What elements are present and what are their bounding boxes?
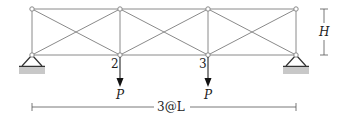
- pin-support-right: [283, 55, 309, 74]
- load-label-p: P: [115, 88, 125, 102]
- node: [294, 7, 298, 11]
- height-label: H: [318, 25, 330, 39]
- arrow-down-icon: [117, 78, 124, 87]
- span-label-text: 3@L: [157, 100, 185, 114]
- node: [118, 7, 122, 11]
- arrow-down-icon: [205, 78, 212, 87]
- node: [294, 53, 298, 57]
- node-label-2: 2: [111, 57, 119, 71]
- ground-hatch: [283, 67, 309, 74]
- load-label-p: P: [203, 88, 213, 102]
- truss-members: [32, 9, 296, 55]
- truss-diagram: 2 3 P P H 3@L: [0, 0, 344, 119]
- pin-support-left: [19, 55, 45, 74]
- node: [30, 7, 34, 11]
- span-label: 3@L: [157, 100, 185, 114]
- ground-hatch: [19, 67, 45, 74]
- node: [30, 53, 34, 57]
- node-label-3: 3: [199, 57, 207, 71]
- node: [206, 7, 210, 11]
